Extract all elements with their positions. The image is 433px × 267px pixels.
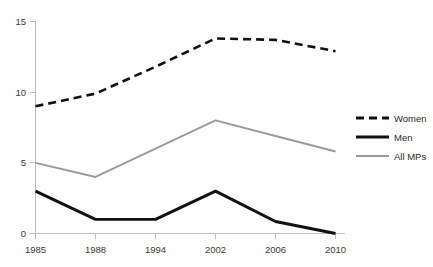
x-tick-label-1988: 1988 bbox=[85, 244, 106, 255]
legend-label-men: Men bbox=[394, 132, 412, 143]
x-tick-label-2006: 2006 bbox=[265, 244, 286, 255]
y-tick-label-0: 0 bbox=[21, 228, 26, 239]
y-tick-label-5: 5 bbox=[21, 157, 26, 168]
chart-background bbox=[0, 0, 433, 267]
x-tick-label-2002: 2002 bbox=[205, 244, 226, 255]
chart-canvas: 15 10 5 0 1985 1988 1994 2002 2006 2010 … bbox=[0, 0, 433, 267]
y-tick-label-15: 15 bbox=[15, 16, 26, 27]
x-tick-label-1994: 1994 bbox=[145, 244, 166, 255]
x-tick-label-2010: 2010 bbox=[325, 244, 346, 255]
y-tick-label-10: 10 bbox=[15, 87, 26, 98]
x-tick-label-1985: 1985 bbox=[25, 244, 46, 255]
line-chart: 15 10 5 0 1985 1988 1994 2002 2006 2010 … bbox=[0, 0, 433, 267]
legend-label-all-mps: All MPs bbox=[394, 151, 426, 162]
legend-label-women: Women bbox=[394, 113, 427, 124]
